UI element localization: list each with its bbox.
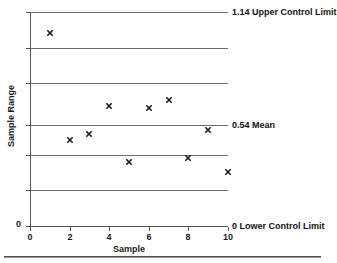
mean-label: 0.54 Mean <box>232 120 275 130</box>
footer-divider <box>4 256 321 258</box>
x-axis-tick-label: 4 <box>106 232 111 242</box>
data-point <box>106 102 113 109</box>
data-point <box>66 136 73 143</box>
x-axis-tick-label: 6 <box>146 232 151 242</box>
y-axis-tick <box>26 155 31 156</box>
y-axis-line <box>30 12 31 227</box>
gridline <box>30 155 228 156</box>
gridline <box>30 125 228 126</box>
y-axis-zero-label: 0 <box>16 219 21 229</box>
data-point <box>185 155 192 162</box>
x-axis-tick-label: 10 <box>223 232 233 242</box>
y-axis-title: Sample Range <box>6 87 16 147</box>
x-axis-tick <box>228 227 229 231</box>
data-point <box>126 159 133 166</box>
x-axis-tick <box>30 227 31 231</box>
x-axis-tick <box>109 227 110 231</box>
gridline <box>30 48 228 49</box>
y-axis-tick <box>26 83 31 84</box>
data-point <box>46 29 53 36</box>
gridline <box>30 190 228 191</box>
x-axis-tick-label: 8 <box>185 232 190 242</box>
data-point <box>225 168 232 175</box>
data-point <box>86 131 93 138</box>
data-point <box>165 97 172 104</box>
x-axis-tick <box>149 227 150 231</box>
y-axis-tick <box>26 190 31 191</box>
x-axis-title: Sample <box>113 244 145 254</box>
x-axis-tick-label: 2 <box>67 232 72 242</box>
data-point <box>205 127 212 134</box>
gridline <box>30 12 228 13</box>
gridline <box>30 83 228 84</box>
y-axis-tick <box>26 12 31 13</box>
x-axis-line <box>30 226 228 227</box>
y-axis-tick <box>26 48 31 49</box>
x-axis-tick <box>188 227 189 231</box>
upper-control-limit-label: 1.14 Upper Control Limit <box>232 7 337 17</box>
x-axis-tick <box>70 227 71 231</box>
data-point <box>145 104 152 111</box>
y-axis-tick <box>26 125 31 126</box>
lower-control-limit-label: 0 Lower Control Limit <box>232 221 325 231</box>
x-axis-tick-label: 0 <box>27 232 32 242</box>
